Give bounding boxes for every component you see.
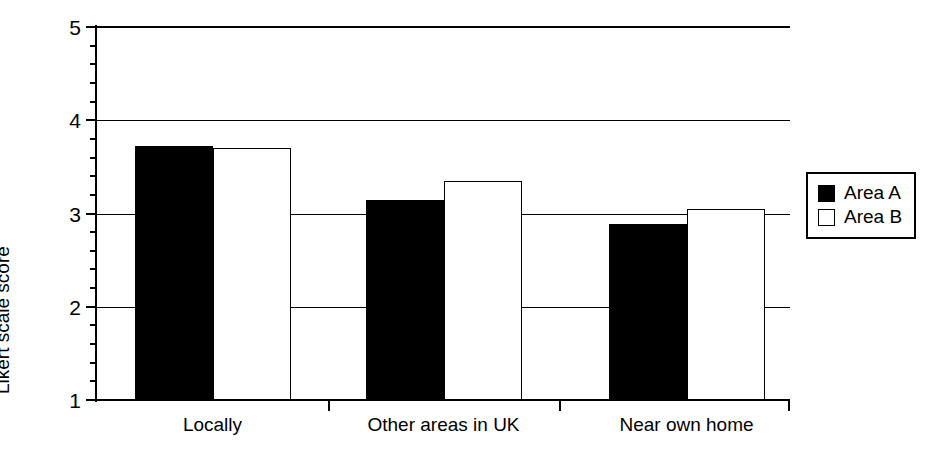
y-axis-title-label: Likert scale score [0, 246, 14, 394]
y-tick-4.6 [90, 63, 97, 65]
gridline-5 [97, 26, 790, 28]
y-tick-5 [86, 26, 97, 28]
y-tick-label-1: 1 [69, 390, 81, 411]
y-tick-2.4 [90, 268, 97, 270]
filled-square-icon [818, 185, 835, 202]
x-category-label-0: Locally [183, 414, 242, 436]
bar-area-a-1 [366, 200, 444, 400]
bar-area-b-0 [213, 148, 291, 400]
y-tick-label-5: 5 [69, 17, 81, 38]
y-tick-1.8 [90, 324, 97, 326]
legend-item-area-a: Area A [818, 181, 902, 205]
x-tick-2 [559, 400, 561, 411]
plot-area: 12345 [97, 27, 790, 400]
y-tick-3.4 [90, 175, 97, 177]
gridline-4 [97, 120, 790, 121]
hollow-square-icon [818, 209, 835, 226]
legend-label-area-b: Area B [844, 206, 902, 228]
y-tick-4.2 [90, 101, 97, 103]
y-tick-label-2: 2 [69, 296, 81, 317]
legend: Area A Area B [806, 172, 916, 239]
y-tick-4 [86, 119, 97, 121]
y-tick-4.8 [90, 45, 97, 47]
x-category-label-2: Near own home [619, 414, 753, 436]
legend-label-area-a: Area A [844, 182, 901, 204]
y-tick-2.8 [90, 231, 97, 233]
x-tick-end [788, 400, 790, 411]
x-tick-1 [328, 400, 330, 411]
bar-area-a-2 [609, 224, 687, 400]
y-tick-3 [86, 213, 97, 215]
y-tick-3.8 [90, 138, 97, 140]
bar-area-a-0 [135, 146, 213, 400]
y-tick-1.2 [90, 380, 97, 382]
bar-area-b-1 [444, 181, 522, 400]
chart-figure: Likert scale score 12345 LocallyOther ar… [0, 0, 952, 456]
y-tick-label-4: 4 [69, 110, 81, 131]
y-tick-4.4 [90, 82, 97, 84]
y-tick-2.2 [90, 287, 97, 289]
legend-item-area-b: Area B [818, 205, 902, 229]
y-tick-3.2 [90, 194, 97, 196]
y-tick-2 [86, 306, 97, 308]
y-tick-1.6 [90, 343, 97, 345]
y-tick-1 [86, 399, 97, 401]
bar-area-b-2 [687, 209, 765, 400]
x-category-label-1: Other areas in UK [367, 414, 519, 436]
y-tick-1.4 [90, 362, 97, 364]
y-tick-2.6 [90, 250, 97, 252]
y-tick-label-3: 3 [69, 203, 81, 224]
y-axis-title: Likert scale score [14, 34, 40, 394]
y-tick-3.6 [90, 157, 97, 159]
